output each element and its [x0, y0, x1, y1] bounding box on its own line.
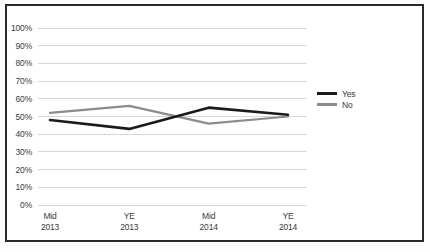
x-tick-label: Mid2013 — [20, 211, 80, 233]
legend-swatch-no-icon — [317, 103, 337, 106]
y-tick-label: 10% — [0, 182, 32, 192]
x-tick-label: YE2014 — [258, 211, 318, 233]
x-tick-label-line: 2013 — [20, 222, 80, 233]
y-tick-label: 30% — [0, 147, 32, 157]
y-tick-label: 90% — [0, 41, 32, 51]
x-tick-label-line: YE — [258, 211, 318, 222]
legend-item-yes: Yes — [317, 88, 387, 99]
x-tick-label-line: 2014 — [179, 222, 239, 233]
legend-label-yes: Yes — [342, 89, 355, 99]
x-tick-label-line: Mid — [20, 211, 80, 222]
y-tick-label: 60% — [0, 94, 32, 104]
y-tick-label: 70% — [0, 76, 32, 86]
x-tick-label: YE2013 — [99, 211, 159, 233]
legend-label-no: No — [342, 100, 352, 110]
chart-figure: 0%10%20%30%40%50%60%70%80%90%100% Mid201… — [0, 0, 430, 252]
y-tick-label: 100% — [0, 23, 32, 33]
x-tick-label-line: 2014 — [258, 222, 318, 233]
legend-item-no: No — [317, 99, 387, 110]
y-tick-label: 50% — [0, 112, 32, 122]
legend-swatch-yes-icon — [317, 92, 337, 95]
chart-legend: Yes No — [317, 88, 387, 110]
x-tick-label-line: 2013 — [99, 222, 159, 233]
y-tick-label: 0% — [0, 200, 32, 210]
x-tick-label-line: Mid — [179, 211, 239, 222]
y-tick-label: 20% — [0, 165, 32, 175]
x-tick-label: Mid2014 — [179, 211, 239, 233]
y-tick-label: 40% — [0, 129, 32, 139]
series-lines-group — [50, 106, 288, 129]
y-tick-label: 80% — [0, 58, 32, 68]
series-line-no — [50, 106, 288, 124]
x-tick-label-line: YE — [99, 211, 159, 222]
